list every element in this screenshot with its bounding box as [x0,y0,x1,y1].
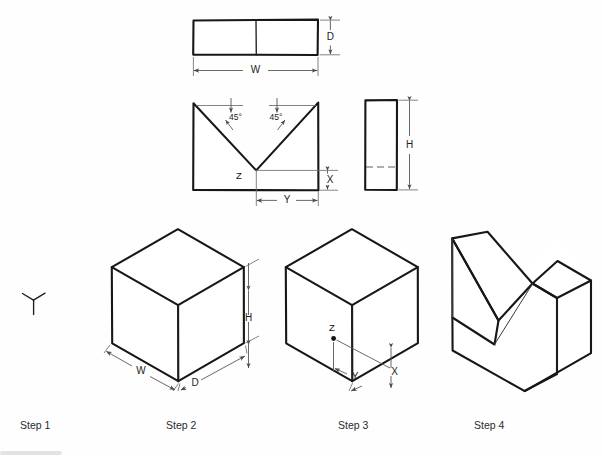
axis-tripod-icon-upper [23,293,46,300]
scrollbar-remnant [0,451,62,455]
front-view-angle-right-label: 45° [270,112,283,122]
step-2-h-label: H [245,312,252,323]
step-3-graphic: Z Y X [286,229,418,391]
top-view-dimension-w: W [193,57,318,76]
top-view-d-label: D [327,31,334,42]
step-2-caption: Step 2 [166,419,196,431]
front-view-x-label: X [327,174,334,185]
step-2-w-label: W [136,365,146,376]
side-view-dimension-h: H [399,100,419,190]
drawing-sheet: W D 45° [0,0,603,457]
step-4-caption: Step 4 [474,419,504,431]
front-view-y-label: Y [284,194,291,205]
top-view-group: W D [193,20,340,76]
step-1-caption: Step 1 [20,419,50,431]
step-4-graphic [452,232,591,391]
step-1-graphic [23,293,46,314]
step-3-caption: Step 3 [338,419,368,431]
step-3-point-z-label: Z [329,322,335,333]
top-view-dimension-d: D [320,20,340,55]
front-view-group: 45° 45° Z Y [193,98,338,206]
front-view-point-z-label: Z [236,170,242,181]
top-view-w-label: W [251,64,261,75]
step-3-x-label: X [391,366,398,377]
technical-drawing-canvas: W D 45° [0,0,603,457]
side-view-h-label: H [406,139,413,150]
front-view-angle-left-label: 45° [229,112,242,122]
step-3-point-z-dot [331,336,336,341]
side-view-group: H [365,100,418,190]
step-2-d-label: D [191,377,198,388]
step-2-graphic: W D H [104,229,259,391]
step-3-y-label: Y [352,371,359,382]
